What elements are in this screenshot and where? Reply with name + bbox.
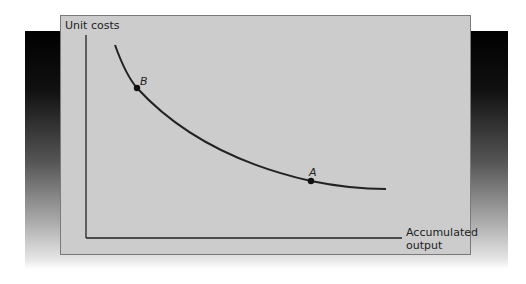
x-axis-label-line1: Accumulated (406, 227, 478, 239)
point-a-label: A (309, 167, 317, 179)
x-axis-label-line2: output (406, 240, 442, 252)
point-b-label: B (140, 76, 148, 88)
plot-area (0, 0, 526, 284)
experience-curve (115, 45, 386, 189)
y-axis-label: Unit costs (65, 20, 119, 32)
